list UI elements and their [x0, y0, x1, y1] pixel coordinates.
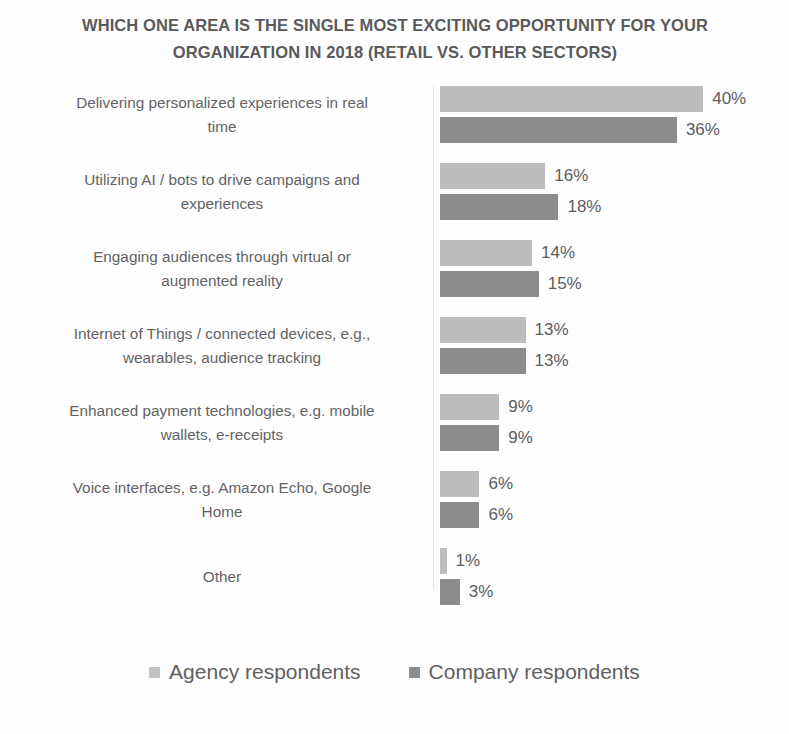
bar-row: 1% — [440, 548, 789, 574]
category-label-line: Home — [20, 500, 424, 524]
bar-agency[interactable] — [440, 394, 499, 420]
bar-row: 13% — [440, 348, 789, 374]
bar-value-label: 40% — [703, 86, 746, 112]
legend-label-company: Company respondents — [429, 660, 640, 684]
category-label-line: Utilizing AI / bots to drive campaigns a… — [20, 168, 424, 192]
category-label-line: Enhanced payment technologies, e.g. mobi… — [20, 399, 424, 423]
category-label-line: time — [20, 115, 424, 139]
category-group: Voice interfaces, e.g. Amazon Echo, Goog… — [0, 471, 789, 528]
category-label-line: wearables, audience tracking — [20, 346, 424, 370]
bar-value-label: 18% — [558, 194, 601, 220]
category-label: Other — [20, 565, 424, 589]
bar-company[interactable] — [440, 502, 479, 528]
bar-value-label: 9% — [499, 425, 533, 451]
bar-row: 15% — [440, 271, 789, 297]
category-bars: 40%36% — [440, 86, 789, 143]
category-group: Other1%3% — [0, 548, 789, 605]
bar-value-label: 6% — [479, 471, 513, 497]
category-label: Internet of Things / connected devices, … — [20, 322, 424, 370]
bar-company[interactable] — [440, 425, 499, 451]
category-label-line: Engaging audiences through virtual or — [20, 245, 424, 269]
category-group: Engaging audiences through virtual oraug… — [0, 240, 789, 297]
category-group: Internet of Things / connected devices, … — [0, 317, 789, 374]
chart-title-line-1: WHICH ONE AREA IS THE SINGLE MOST EXCITI… — [60, 12, 730, 39]
chart-title-line-2: ORGANIZATION IN 2018 (RETAIL VS. OTHER S… — [60, 39, 730, 66]
bar-company[interactable] — [440, 348, 526, 374]
bar-row: 9% — [440, 394, 789, 420]
category-label-line: Delivering personalized experiences in r… — [20, 91, 424, 115]
category-label-line: Internet of Things / connected devices, … — [20, 322, 424, 346]
category-label-line: wallets, e-receipts — [20, 423, 424, 447]
bar-row: 3% — [440, 579, 789, 605]
bar-value-label: 9% — [499, 394, 533, 420]
bar-row: 16% — [440, 163, 789, 189]
chart-legend: Agency respondents Company respondents — [0, 660, 789, 684]
category-label: Engaging audiences through virtual oraug… — [20, 245, 424, 293]
category-bars: 14%15% — [440, 240, 789, 297]
legend-swatch-company-icon — [409, 667, 420, 678]
bar-row: 9% — [440, 425, 789, 451]
bar-value-label: 6% — [479, 502, 513, 528]
category-bars: 1%3% — [440, 548, 789, 605]
bar-row: 40% — [440, 86, 789, 112]
category-bars: 13%13% — [440, 317, 789, 374]
bar-value-label: 16% — [545, 163, 588, 189]
bar-company[interactable] — [440, 579, 460, 605]
bar-agency[interactable] — [440, 163, 545, 189]
category-label-line: augmented reality — [20, 269, 424, 293]
category-bars: 6%6% — [440, 471, 789, 528]
bar-value-label: 36% — [677, 117, 720, 143]
bar-value-label: 1% — [447, 548, 481, 574]
chart-container: WHICH ONE AREA IS THE SINGLE MOST EXCITI… — [0, 0, 789, 734]
category-label: Voice interfaces, e.g. Amazon Echo, Goog… — [20, 476, 424, 524]
category-label: Utilizing AI / bots to drive campaigns a… — [20, 168, 424, 216]
bar-agency[interactable] — [440, 548, 447, 574]
bar-value-label: 14% — [532, 240, 575, 266]
bar-value-label: 3% — [460, 579, 494, 605]
bar-company[interactable] — [440, 194, 558, 220]
category-label-line: experiences — [20, 192, 424, 216]
category-label-line: Voice interfaces, e.g. Amazon Echo, Goog… — [20, 476, 424, 500]
bar-value-label: 13% — [526, 348, 569, 374]
category-label: Delivering personalized experiences in r… — [20, 91, 424, 139]
bar-agency[interactable] — [440, 86, 703, 112]
plot-area: Delivering personalized experiences in r… — [0, 86, 789, 602]
bar-agency[interactable] — [440, 471, 479, 497]
legend-item-agency[interactable]: Agency respondents — [149, 660, 360, 684]
category-group: Delivering personalized experiences in r… — [0, 86, 789, 143]
bar-row: 13% — [440, 317, 789, 343]
bar-row: 14% — [440, 240, 789, 266]
bar-company[interactable] — [440, 271, 539, 297]
bar-row: 36% — [440, 117, 789, 143]
category-label: Enhanced payment technologies, e.g. mobi… — [20, 399, 424, 447]
category-group: Utilizing AI / bots to drive campaigns a… — [0, 163, 789, 220]
bar-value-label: 13% — [526, 317, 569, 343]
chart-title: WHICH ONE AREA IS THE SINGLE MOST EXCITI… — [60, 12, 730, 66]
legend-label-agency: Agency respondents — [169, 660, 360, 684]
bar-row: 6% — [440, 471, 789, 497]
bar-value-label: 15% — [539, 271, 582, 297]
category-bars: 9%9% — [440, 394, 789, 451]
bar-agency[interactable] — [440, 240, 532, 266]
category-label-line: Other — [20, 565, 424, 589]
bar-agency[interactable] — [440, 317, 526, 343]
bar-row: 6% — [440, 502, 789, 528]
category-bars: 16%18% — [440, 163, 789, 220]
legend-swatch-agency-icon — [149, 667, 160, 678]
bar-company[interactable] — [440, 117, 677, 143]
legend-item-company[interactable]: Company respondents — [409, 660, 640, 684]
bar-row: 18% — [440, 194, 789, 220]
category-group: Enhanced payment technologies, e.g. mobi… — [0, 394, 789, 451]
